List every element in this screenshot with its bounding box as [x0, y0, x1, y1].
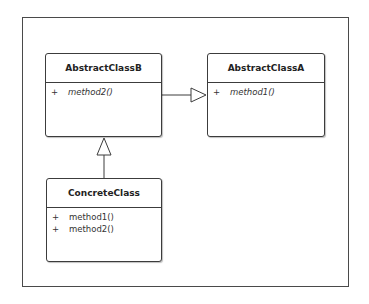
operation-row[interactable]: + method1()	[208, 86, 324, 98]
class-abstract-class-a[interactable]: AbstractClassA + method1()	[207, 53, 325, 137]
generalization-b-to-a[interactable]	[162, 88, 206, 102]
generalization-concrete-to-b[interactable]	[97, 138, 111, 178]
operations-compartment: + method1() + method2()	[47, 208, 161, 235]
visibility-public: +	[47, 223, 69, 235]
class-name: AbstractClassB	[46, 54, 161, 83]
operation-row[interactable]: + method2()	[46, 86, 161, 98]
operations-compartment: + method2()	[46, 83, 161, 98]
class-name: ConcreteClass	[47, 179, 161, 208]
operation-name: method1()	[69, 211, 114, 223]
operation-name: method2()	[68, 86, 113, 98]
visibility-public: +	[208, 86, 230, 98]
hollow-triangle-arrow-icon	[191, 88, 206, 102]
visibility-public: +	[46, 86, 68, 98]
class-name: AbstractClassA	[208, 54, 324, 83]
operation-name: method2()	[69, 223, 114, 235]
class-concrete-class[interactable]: ConcreteClass + method1() + method2()	[46, 178, 162, 262]
operations-compartment: + method1()	[208, 83, 324, 98]
operation-name: method1()	[230, 86, 275, 98]
class-abstract-class-b[interactable]: AbstractClassB + method2()	[45, 53, 162, 137]
hollow-triangle-arrow-icon	[97, 138, 111, 155]
operation-row[interactable]: + method1()	[47, 211, 161, 223]
visibility-public: +	[47, 211, 69, 223]
operation-row[interactable]: + method2()	[47, 223, 161, 235]
